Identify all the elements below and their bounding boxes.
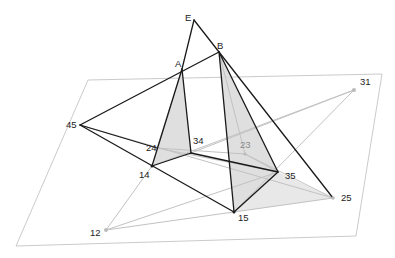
label-25: 25 <box>341 192 352 203</box>
point-23[interactable] <box>243 152 246 155</box>
label-A: A <box>175 58 182 69</box>
line-12-25 <box>106 198 333 230</box>
point-14[interactable] <box>151 165 154 168</box>
label-12: 12 <box>90 227 101 238</box>
point-12[interactable] <box>104 228 108 232</box>
point-15[interactable] <box>233 211 236 214</box>
label-45: 45 <box>66 119 77 130</box>
edge-45-B <box>80 52 219 125</box>
projection-lines <box>80 52 354 230</box>
edge-E-A <box>182 20 194 69</box>
point-31[interactable] <box>352 88 356 92</box>
edge-45-15 <box>80 125 234 212</box>
label-14: 14 <box>139 169 150 180</box>
label-23: 23 <box>240 139 251 150</box>
label-E: E <box>185 12 191 23</box>
label-B: B <box>217 40 223 51</box>
label-35: 35 <box>285 170 296 181</box>
label-34: 34 <box>193 135 204 146</box>
label-24: 24 <box>146 142 157 153</box>
label-31: 31 <box>360 76 371 87</box>
geometry-diagram: E A B 45 24 34 14 23 35 15 25 31 12 <box>0 0 395 258</box>
edge-E-B <box>194 20 219 52</box>
point-25[interactable] <box>331 196 335 200</box>
point-labels: E A B 45 24 34 14 23 35 15 25 31 12 <box>66 12 371 238</box>
label-15: 15 <box>238 212 249 223</box>
